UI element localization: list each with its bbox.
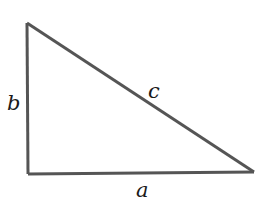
label-b: b <box>7 91 20 115</box>
side-b <box>27 23 28 174</box>
label-c: c <box>148 79 160 103</box>
side-c-hypotenuse <box>27 23 254 172</box>
side-a <box>28 172 254 174</box>
triangle-diagram: b c a <box>0 0 274 201</box>
label-a: a <box>136 178 149 201</box>
